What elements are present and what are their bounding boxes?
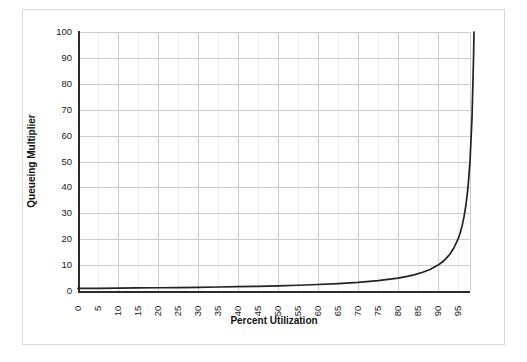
x-tick-label: 20 <box>153 306 163 346</box>
x-tick-label: 75 <box>373 306 383 346</box>
y-tick-label: 0 <box>67 286 72 296</box>
y-tick-label: 70 <box>61 105 72 115</box>
y-tick-label: 10 <box>61 260 72 270</box>
x-tick-label: 15 <box>133 306 143 346</box>
y-tick-label: 60 <box>61 131 72 141</box>
y-tick-label: 80 <box>61 79 72 89</box>
x-tick-label: 90 <box>433 306 443 346</box>
x-tick-label: 80 <box>393 306 403 346</box>
x-tick-label: 0 <box>73 306 83 346</box>
y-tick-label: 100 <box>56 27 72 37</box>
grid-major-lines <box>78 32 471 291</box>
y-tick-label: 50 <box>61 157 72 167</box>
x-axis-title: Percent Utilization <box>174 316 374 326</box>
y-tick-label: 90 <box>61 53 72 63</box>
y-tick-label: 40 <box>61 182 72 192</box>
chart-figure: 0102030405060708090100 05101520253035404… <box>0 0 527 362</box>
y-tick-label: 30 <box>61 208 72 218</box>
axis-lines <box>78 31 471 292</box>
x-tick-label: 5 <box>93 306 103 346</box>
y-axis-title: Queueing Multiplier <box>27 101 37 221</box>
queueing-multiplier-curve <box>78 32 474 288</box>
y-tick-label: 20 <box>61 234 72 244</box>
x-tick-label: 85 <box>413 306 423 346</box>
x-tick-label: 10 <box>113 306 123 346</box>
x-tick-label: 95 <box>453 306 463 346</box>
